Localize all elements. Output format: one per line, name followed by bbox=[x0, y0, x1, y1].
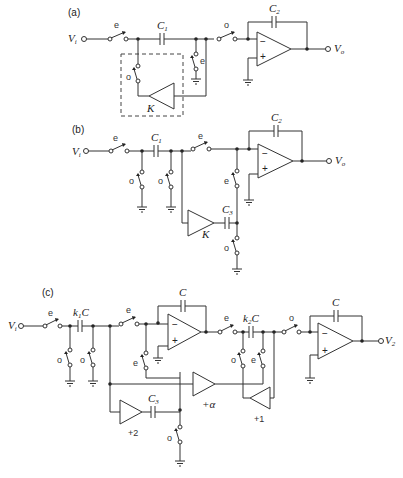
ground-icon bbox=[137, 207, 147, 212]
ground-icon bbox=[88, 381, 98, 386]
switch-shunt-o: o bbox=[224, 236, 239, 255]
output-vo-label: Vo bbox=[334, 42, 345, 56]
switch-series-e: e bbox=[43, 308, 62, 328]
capacitor-k2c: k2C bbox=[243, 312, 259, 338]
capacitor-c2: C2 bbox=[271, 111, 282, 137]
gain-k-label: K bbox=[201, 228, 210, 240]
svg-text:o: o bbox=[224, 20, 229, 30]
switch-series-o: o bbox=[217, 20, 237, 41]
switch-shunt-o: o bbox=[129, 170, 144, 189]
ground-icon bbox=[305, 378, 315, 383]
circuit-figure: (a) Vi e C1 bbox=[0, 0, 403, 478]
svg-text:−: − bbox=[172, 319, 178, 330]
ground-icon bbox=[232, 269, 242, 274]
svg-text:o: o bbox=[126, 72, 131, 82]
capacitor-c3: C3 bbox=[222, 203, 233, 229]
panel-c: (c) Vi e k1C o bbox=[8, 286, 396, 466]
output-terminal bbox=[327, 159, 332, 164]
svg-text:o: o bbox=[167, 433, 172, 443]
ground-icon bbox=[153, 358, 163, 363]
input-terminal bbox=[82, 37, 87, 42]
switch-series-e: e bbox=[108, 20, 128, 41]
switch-shunt-o: o bbox=[231, 349, 245, 368]
svg-text:o: o bbox=[158, 176, 163, 186]
svg-text:o: o bbox=[57, 355, 62, 365]
svg-text:e: e bbox=[224, 313, 229, 323]
svg-text:e: e bbox=[133, 358, 138, 368]
switch-shunt-o: o bbox=[57, 348, 72, 367]
ground-icon bbox=[244, 200, 254, 205]
svg-text:−: − bbox=[260, 36, 266, 47]
output-terminal bbox=[326, 47, 331, 52]
svg-text:+: + bbox=[262, 163, 268, 174]
capacitor-c: C bbox=[179, 286, 187, 312]
switch-shunt-o: o bbox=[167, 425, 182, 444]
svg-text:e: e bbox=[114, 20, 119, 30]
input-vi-label: Vi bbox=[8, 319, 17, 333]
ground-icon bbox=[191, 79, 201, 84]
panel-a-label: (a) bbox=[68, 7, 80, 18]
svg-text:e: e bbox=[251, 355, 256, 365]
svg-text:e: e bbox=[198, 131, 203, 141]
panel-b: (b) Vi e C1 o bbox=[72, 111, 346, 274]
capacitor-c1: C1 bbox=[151, 131, 162, 157]
svg-text:C1: C1 bbox=[151, 131, 162, 145]
svg-text:C2: C2 bbox=[271, 111, 282, 125]
svg-text:−: − bbox=[262, 148, 268, 159]
input-vi-label: Vi bbox=[68, 32, 77, 46]
svg-text:e: e bbox=[200, 56, 205, 66]
panel-c-label: (c) bbox=[42, 287, 54, 298]
switch-series-e: e bbox=[191, 131, 211, 151]
svg-text:C: C bbox=[332, 296, 340, 308]
gain-k-label: K bbox=[146, 102, 155, 114]
svg-text:o: o bbox=[231, 355, 236, 365]
svg-text:k1C: k1C bbox=[73, 306, 89, 320]
output-terminal bbox=[379, 339, 384, 344]
capacitor-k1c: k1C bbox=[73, 306, 89, 332]
svg-text:−: − bbox=[322, 328, 328, 339]
svg-text:+: + bbox=[172, 335, 178, 346]
ground-icon bbox=[243, 80, 253, 85]
switch-series-e: e bbox=[119, 305, 139, 326]
panel-b-label: (b) bbox=[72, 124, 84, 135]
amplifier-k bbox=[188, 210, 214, 236]
gain-plus2-label: +2 bbox=[128, 428, 138, 438]
svg-text:o: o bbox=[289, 313, 294, 323]
capacitor-c: C bbox=[332, 296, 340, 322]
capacitor-c1: C1 bbox=[157, 19, 168, 45]
capacitor-c3: C3 bbox=[148, 392, 159, 418]
svg-text:e: e bbox=[126, 305, 131, 315]
ground-icon bbox=[175, 461, 185, 466]
svg-text:k2C: k2C bbox=[243, 312, 259, 326]
gain-plus1-label: +1 bbox=[254, 414, 264, 424]
switch-series-e: e bbox=[218, 313, 237, 334]
switch-shunt-o: o bbox=[158, 170, 173, 189]
svg-text:e: e bbox=[113, 133, 118, 143]
svg-text:+: + bbox=[260, 51, 266, 62]
switch-series-o: o bbox=[282, 313, 301, 334]
ground-icon bbox=[166, 207, 176, 212]
svg-text:C1: C1 bbox=[157, 19, 168, 33]
svg-text:o: o bbox=[224, 243, 229, 253]
output-v2-label: V2 bbox=[385, 334, 396, 348]
switch-series-e: e bbox=[109, 133, 129, 153]
svg-text:o: o bbox=[129, 176, 134, 186]
amplifier-plus-alpha bbox=[193, 372, 215, 396]
panel-a: (a) Vi e C1 bbox=[68, 2, 345, 116]
svg-text:C2: C2 bbox=[269, 2, 280, 16]
gain-alpha-label: +α bbox=[202, 398, 215, 410]
svg-text:e: e bbox=[224, 176, 229, 186]
svg-text:C3: C3 bbox=[222, 203, 233, 217]
amplifier-plus2 bbox=[120, 400, 142, 424]
capacitor-c2: C2 bbox=[269, 2, 280, 28]
switch-shunt-o: o bbox=[80, 348, 95, 367]
svg-text:e: e bbox=[48, 308, 53, 318]
input-terminal bbox=[84, 149, 89, 154]
svg-text:+: + bbox=[322, 345, 328, 356]
switch-shunt-e: e bbox=[251, 349, 265, 368]
switch-shunt-o: o bbox=[126, 64, 140, 83]
output-vo-label: Vo bbox=[335, 154, 346, 168]
switch-shunt-e: e bbox=[190, 52, 205, 71]
svg-text:C: C bbox=[179, 286, 187, 298]
amplifier-plus1 bbox=[250, 387, 270, 409]
